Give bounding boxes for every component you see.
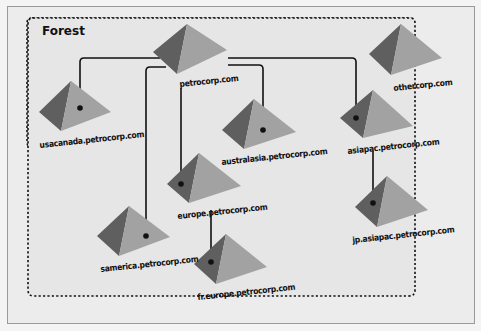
forest-diagram [0,0,481,331]
forest-title: Forest [42,24,85,38]
